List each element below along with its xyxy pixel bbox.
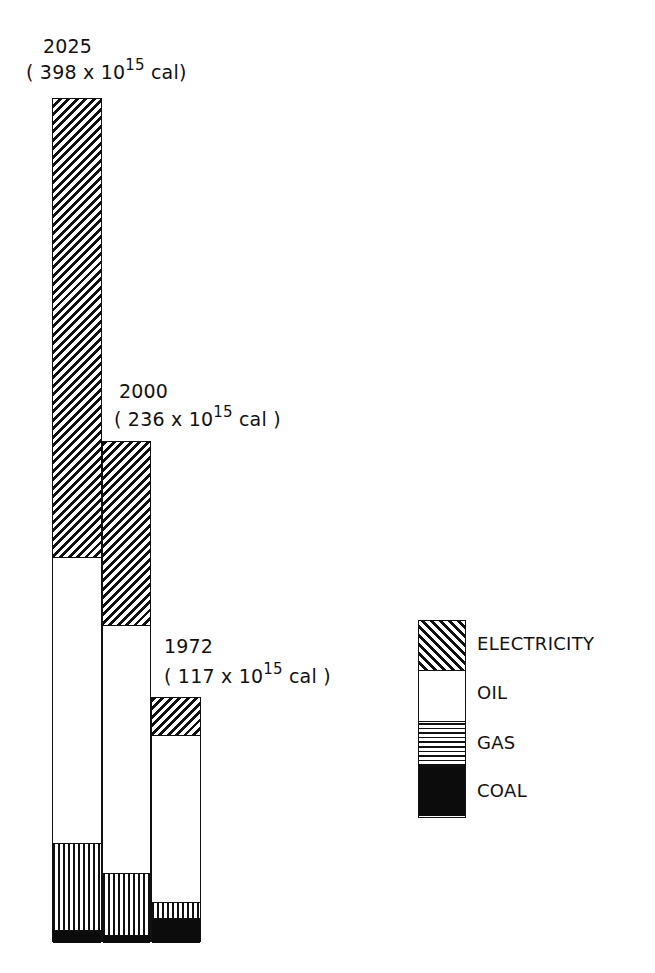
segment-1972-oil xyxy=(152,735,200,902)
legend-label-gas: GAS xyxy=(477,733,516,753)
segment-2000-electricity xyxy=(103,442,150,625)
segment-2000-coal xyxy=(103,935,150,943)
bar-1972 xyxy=(151,697,201,942)
bar-2025 xyxy=(52,98,102,942)
unit: cal) xyxy=(145,61,187,83)
year-text: 1972 xyxy=(164,635,213,657)
times-ten: x 10 xyxy=(165,408,214,430)
times-ten: x 10 xyxy=(77,61,126,83)
legend-swatch-electricity xyxy=(419,621,465,670)
bar-label-2025-year: 2025 xyxy=(43,35,92,57)
year-text: 2000 xyxy=(119,380,168,402)
segment-1972-coal xyxy=(152,918,200,943)
legend-swatch-oil xyxy=(419,670,465,721)
legend-label-oil: OIL xyxy=(477,683,507,703)
bar-label-2000-total: ( 236 x 1015 cal ) xyxy=(114,408,281,430)
exponent: 15 xyxy=(263,660,283,678)
segment-1972-gas xyxy=(152,902,200,918)
legend-label-coal: COAL xyxy=(477,781,527,801)
legend-label-electricity: ELECTRICITY xyxy=(477,634,594,654)
bar-label-2000-year: 2000 xyxy=(119,380,168,402)
stacked-bar-chart: 2025 ( 398 x 1015 cal) 2000 ( 236 x 1015… xyxy=(0,0,655,973)
segment-2025-gas xyxy=(53,843,101,930)
segment-2000-gas xyxy=(103,873,150,935)
segment-2025-coal xyxy=(53,930,101,943)
legend-swatch-coal xyxy=(419,766,465,816)
segment-2025-electricity xyxy=(53,99,101,557)
segment-1972-electricity xyxy=(152,698,200,735)
bar-2000 xyxy=(102,441,151,942)
segment-2000-oil xyxy=(103,625,150,873)
year-text: 2025 xyxy=(43,35,92,57)
unit: cal ) xyxy=(283,665,331,687)
unit: cal ) xyxy=(233,408,281,430)
bar-label-1972-total: ( 117 x 1015 cal ) xyxy=(164,665,331,687)
total-value: ( 236 xyxy=(114,408,165,430)
legend-swatch-gas xyxy=(419,721,465,766)
exponent: 15 xyxy=(125,56,145,74)
total-value: ( 398 xyxy=(26,61,77,83)
legend-swatches xyxy=(418,620,466,818)
times-ten: x 10 xyxy=(215,665,264,687)
bar-label-2025-total: ( 398 x 1015 cal) xyxy=(26,61,187,83)
segment-2025-oil xyxy=(53,557,101,843)
bar-label-1972-year: 1972 xyxy=(164,635,213,657)
total-value: ( 117 xyxy=(164,665,215,687)
exponent: 15 xyxy=(213,403,233,421)
